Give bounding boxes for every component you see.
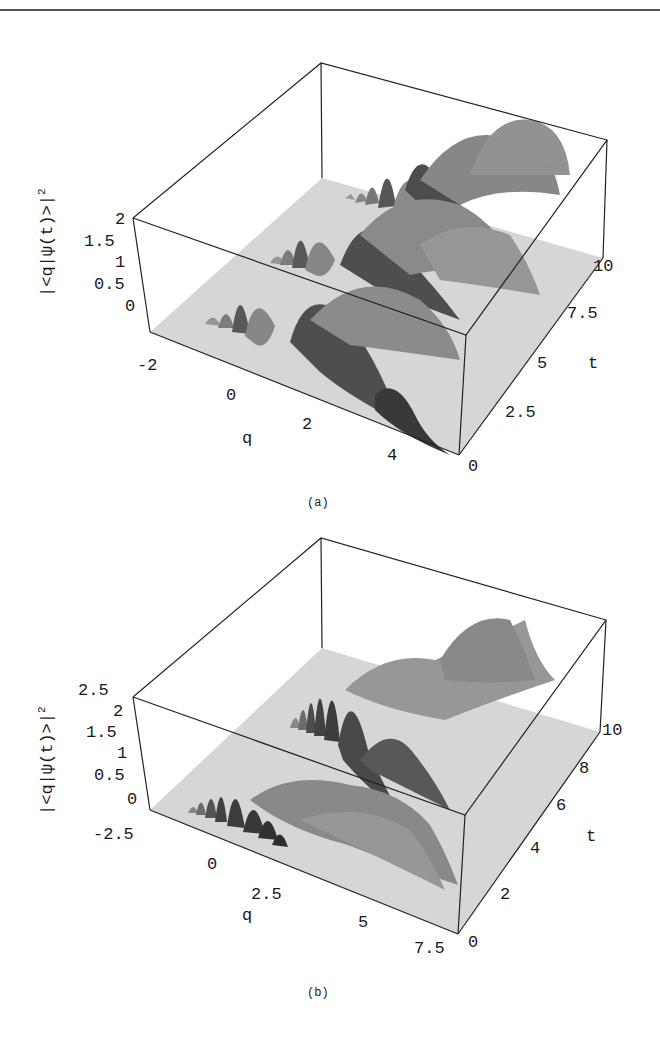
panel-a-z-tick: 2 <box>115 211 125 228</box>
panel-a-t-tick: 10 <box>593 258 613 275</box>
panel-a-q-axis-label: q <box>242 430 252 447</box>
panel-a-q-tick: 0 <box>226 387 236 404</box>
panel-b-t-tick: 10 <box>602 722 622 739</box>
panel-b-t-axis-label: t <box>586 828 596 845</box>
panel-a-z-tick: 0 <box>125 298 135 315</box>
panel-a-z-tick: 1.5 <box>84 233 115 250</box>
figure-canvas <box>0 0 660 1050</box>
panel-b-t-tick: 6 <box>556 797 566 814</box>
panel-b-t-tick: 0 <box>468 934 478 951</box>
panel-b-q-tick: 5 <box>358 914 368 931</box>
panel-b-z-tick: 0.5 <box>94 767 125 784</box>
panel-a-t-tick: 5 <box>537 355 547 372</box>
panel-b-caption: (b) <box>307 986 329 1000</box>
panel-b-z-tick: 2.5 <box>78 682 109 699</box>
panel-a-t-tick: 7.5 <box>567 305 598 322</box>
panel-b-z-tick: 1.5 <box>86 724 117 741</box>
panel-a-z-tick: 1 <box>115 254 125 271</box>
panel-b-t-tick: 8 <box>579 760 589 777</box>
panel-b-t-tick: 2 <box>500 886 510 903</box>
panel-b-t-tick: 4 <box>530 840 540 857</box>
panel-a-t-axis-label: t <box>588 355 598 372</box>
panel-b-z-tick: 0 <box>127 791 137 808</box>
panel-b-q-tick: 7.5 <box>414 940 445 957</box>
panel-a-q-tick: 4 <box>387 447 397 464</box>
panel-a-t-tick: 2.5 <box>505 404 536 421</box>
panel-b-q-tick: -2.5 <box>93 826 134 843</box>
panel-b-q-tick: 0 <box>207 856 217 873</box>
panel-a-t-tick: 0 <box>468 458 478 475</box>
panel-b-q-axis-label: q <box>242 907 252 924</box>
panel-a-z-tick: 0.5 <box>94 276 125 293</box>
panel-b-z-tick: 2 <box>113 703 123 720</box>
panel-a-caption: (a) <box>307 496 329 510</box>
panel-a-z-axis-label: |<q|ψ(t)>|2 <box>36 188 57 297</box>
panel-b-z-tick: 1 <box>117 745 127 762</box>
panel-a-plot <box>133 63 607 455</box>
panel-b-z-axis-label: |<q|ψ(t)>|2 <box>36 706 57 815</box>
panel-b-q-tick: 2.5 <box>251 886 282 903</box>
panel-b-plot <box>133 538 606 934</box>
panel-a-q-tick: -2 <box>137 357 157 374</box>
panel-a-q-tick: 2 <box>302 416 312 433</box>
